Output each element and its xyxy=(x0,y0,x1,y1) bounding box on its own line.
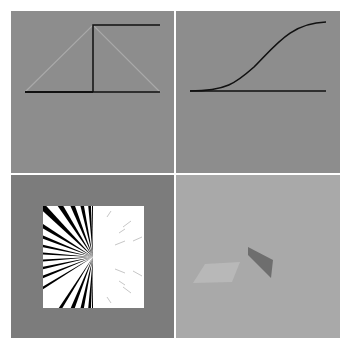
panel-step-function xyxy=(11,11,174,173)
sigmoid-plot xyxy=(176,11,340,173)
panel-sigmoid xyxy=(176,11,340,173)
step-function-plot xyxy=(11,11,174,173)
3d-render-image xyxy=(176,175,340,338)
radial-pattern-image xyxy=(11,175,174,338)
panel-3d-scene xyxy=(176,175,340,338)
panel-radial-pattern xyxy=(11,175,174,338)
